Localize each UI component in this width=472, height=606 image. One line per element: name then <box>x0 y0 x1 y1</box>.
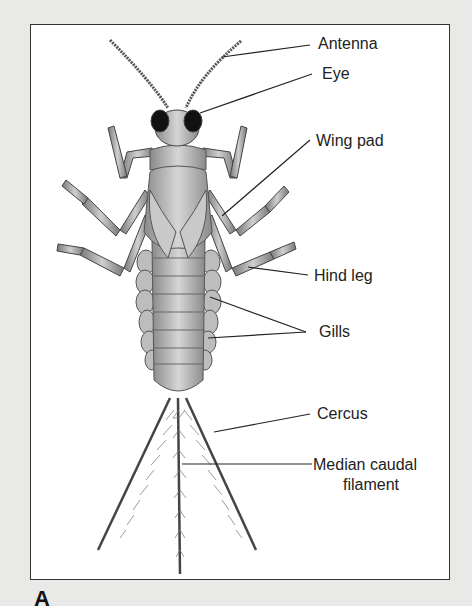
label-hind-leg: Hind leg <box>314 267 373 285</box>
label-gills: Gills <box>319 323 350 341</box>
label-filament: filament <box>343 476 399 494</box>
thorax <box>144 145 212 258</box>
caudal-filaments <box>98 398 256 574</box>
label-eye: Eye <box>322 65 350 83</box>
antennae <box>110 40 241 108</box>
label-wing-pad: Wing pad <box>316 132 384 150</box>
label-antenna: Antenna <box>318 35 378 53</box>
panel-letter: A <box>34 586 50 606</box>
abdomen <box>136 240 221 391</box>
label-cercus: Cercus <box>317 405 368 423</box>
label-median-caudal: Median caudal <box>313 456 417 474</box>
head <box>151 110 202 146</box>
insect-illustration <box>0 0 472 606</box>
